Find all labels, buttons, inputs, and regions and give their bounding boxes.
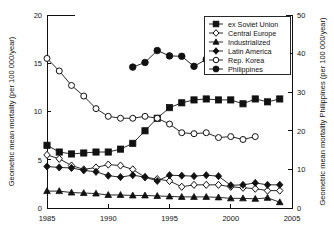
x-axis-tick-label: 1990 <box>100 214 117 223</box>
data-point-marker <box>105 172 111 179</box>
x-axis-tick-label: 1985 <box>39 214 56 223</box>
y-axis-title-right: Geometric mean mortality Philippines (pe… <box>318 17 327 206</box>
data-point-marker <box>129 64 136 71</box>
y-axis-tick-label-right: 0 <box>297 204 301 213</box>
y-axis-tick-label-right: 50 <box>297 11 305 20</box>
data-point-marker <box>117 162 123 169</box>
data-point-marker <box>81 150 87 156</box>
legend-label: ex Soviet Union <box>228 20 278 29</box>
series-ex-soviet-union <box>44 96 283 157</box>
data-point-marker <box>44 163 50 170</box>
y-axis-tick-label-left: 20 <box>34 11 42 20</box>
x-axis-tick-label: 2005 <box>284 214 301 223</box>
data-point-marker <box>56 164 62 171</box>
x-axis-tick-label: 2000 <box>222 214 239 223</box>
data-point-marker <box>178 53 185 60</box>
data-point-marker <box>252 134 258 140</box>
data-point-marker <box>56 155 62 162</box>
data-point-marker <box>179 183 185 190</box>
data-point-marker <box>179 100 185 106</box>
data-point-marker <box>213 66 219 72</box>
data-point-marker <box>203 96 209 102</box>
series-industrialized <box>44 188 283 205</box>
data-point-marker <box>154 47 161 54</box>
data-point-marker <box>191 181 197 188</box>
data-point-marker <box>105 113 111 119</box>
data-point-marker <box>228 134 234 140</box>
data-point-marker <box>191 97 197 103</box>
y-axis-title-left: Geometric mean mortality (per 100 000/ye… <box>7 36 16 186</box>
data-point-marker <box>264 194 271 200</box>
data-point-marker <box>93 106 99 112</box>
data-point-marker <box>56 149 62 155</box>
data-point-marker <box>213 21 219 27</box>
data-point-marker <box>191 131 197 137</box>
y-axis-tick-label-right: 30 <box>297 88 305 97</box>
series-central-europe <box>44 151 283 194</box>
data-point-marker <box>215 173 221 180</box>
legend-layer: ex Soviet UnionCentral EuropeIndustriali… <box>204 16 290 74</box>
line-chart-svg: 051015200102030405019851990199520002005 … <box>0 0 334 245</box>
legend-label: Central Europe <box>228 29 276 38</box>
data-point-marker <box>191 173 197 180</box>
data-point-marker <box>142 59 149 66</box>
data-point-marker <box>179 130 185 136</box>
y-axis-tick-label-left: 5 <box>38 156 42 165</box>
data-point-marker <box>105 149 111 155</box>
data-point-marker <box>216 135 222 141</box>
data-point-marker <box>81 93 87 99</box>
data-point-marker <box>252 96 258 102</box>
data-point-marker <box>142 192 149 198</box>
data-point-marker <box>142 174 148 181</box>
data-point-marker <box>179 172 185 179</box>
data-point-marker <box>203 130 209 136</box>
data-point-marker <box>240 101 246 107</box>
data-point-marker <box>166 172 172 179</box>
legend-label: Rep. Korea <box>228 56 264 65</box>
data-point-marker <box>215 97 221 103</box>
series-latin-america <box>44 163 283 189</box>
data-point-marker <box>93 149 99 155</box>
legend-label: Latin America <box>228 47 272 56</box>
data-point-marker <box>69 82 75 88</box>
legend-label: Industrialized <box>228 38 270 47</box>
data-point-marker <box>166 105 172 111</box>
chart-figure: 051015200102030405019851990199520002005 … <box>0 0 334 245</box>
data-point-marker <box>277 96 283 102</box>
data-point-marker <box>142 113 148 119</box>
data-point-marker <box>56 68 62 74</box>
y-axis-tick-label-right: 20 <box>297 127 305 136</box>
data-point-marker <box>240 136 246 142</box>
series-philippines <box>129 47 209 70</box>
data-point-marker <box>252 179 258 186</box>
y-axis-tick-label-right: 10 <box>297 165 305 174</box>
data-point-marker <box>44 142 50 148</box>
data-point-marker <box>68 151 74 157</box>
data-point-marker <box>240 195 247 201</box>
data-point-marker <box>228 97 234 103</box>
data-point-marker <box>154 115 160 121</box>
data-point-marker <box>264 99 270 105</box>
data-point-marker <box>203 172 209 179</box>
data-point-marker <box>264 181 270 188</box>
data-point-marker <box>130 140 136 146</box>
data-point-marker <box>44 151 50 158</box>
data-point-marker <box>105 161 111 168</box>
data-point-marker <box>130 172 136 179</box>
data-point-marker <box>117 146 123 152</box>
data-point-marker <box>44 55 50 61</box>
legend-label: Philippines <box>228 65 263 74</box>
y-axis-tick-label-left: 10 <box>34 107 42 116</box>
y-axis-tick-label-left: 15 <box>34 59 42 68</box>
y-axis-tick-label-left: 0 <box>38 204 42 213</box>
data-point-marker <box>130 115 136 121</box>
y-axis-tick-label-right: 40 <box>297 49 305 58</box>
data-point-marker <box>213 57 219 63</box>
data-point-marker <box>277 181 283 188</box>
data-point-marker <box>167 121 173 127</box>
data-point-marker <box>203 181 209 188</box>
data-point-marker <box>118 115 124 121</box>
data-point-marker <box>166 53 173 60</box>
data-point-marker <box>117 174 123 181</box>
data-point-marker <box>142 128 148 134</box>
